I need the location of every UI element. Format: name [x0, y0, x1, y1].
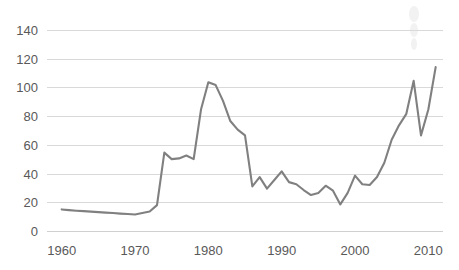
- x-tick-labels: 196019701980199020002010: [47, 243, 443, 258]
- y-tick-label: 40: [24, 167, 38, 182]
- chart-canvas: 020406080100120140 196019701980199020002…: [0, 0, 459, 270]
- scan-artifact: [409, 6, 419, 50]
- y-tick-label: 0: [31, 224, 38, 239]
- x-tick-label: 1960: [47, 243, 76, 258]
- x-tick-label: 2000: [341, 243, 370, 258]
- y-tick-labels: 020406080100120140: [16, 23, 38, 239]
- y-tick-label: 20: [24, 195, 38, 210]
- y-tick-label: 140: [16, 23, 38, 38]
- x-tick-label: 1970: [121, 243, 150, 258]
- x-tick-label: 2010: [414, 243, 443, 258]
- x-tick-label: 1990: [267, 243, 296, 258]
- line-chart: 020406080100120140 196019701980199020002…: [0, 0, 459, 270]
- data-series-line: [62, 67, 436, 214]
- y-tick-label: 100: [16, 80, 38, 95]
- y-tick-label: 60: [24, 138, 38, 153]
- y-tick-label: 120: [16, 52, 38, 67]
- y-tick-label: 80: [24, 109, 38, 124]
- x-tick-label: 1980: [194, 243, 223, 258]
- gridlines: [47, 30, 443, 231]
